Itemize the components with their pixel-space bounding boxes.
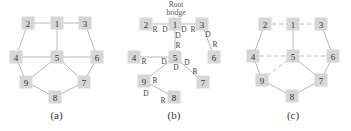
bridge-node-b-4: 4 [128,51,141,64]
bridge-id-label: 2 [144,20,149,30]
root-port-label: R [141,57,146,66]
bridge-node-a-7: 7 [78,76,91,89]
bridge-id-label: 2 [26,19,31,29]
bridge-node-a-5: 5 [51,51,64,64]
root-port-label: R [152,25,157,34]
bridge-id-label: 7 [201,78,206,88]
bridge-id-label: 8 [172,93,177,103]
root-port-label: R [175,41,180,50]
bridge-node-c-5: 5 [287,50,300,63]
bridge-id-label: 4 [14,53,19,63]
bridge-node-a-9: 9 [20,76,33,89]
stp-diagram: 123456978123456978123456978 (a)RDDRDRDRR… [0,0,351,131]
bridge-node-c-7: 7 [315,74,328,87]
bridge-node-c-4: 4 [247,50,260,63]
bridge-node-a-1: 1 [51,17,64,30]
bridge-id-label: 9 [260,76,265,86]
bridge-node-a-6: 6 [91,51,104,64]
bridge-node-b-9: 9 [138,75,151,88]
bridge-node-b-2: 2 [140,18,153,31]
bridge-node-c-8: 8 [286,90,299,103]
bridge-id-label: 9 [24,78,29,88]
bridge-node-b-8: 8 [168,91,181,104]
bridge-node-c-1: 1 [287,18,300,31]
bridge-id-label: 9 [142,77,147,87]
bridge-node-a-2: 2 [22,17,35,30]
bridge-id-label: 4 [251,52,256,62]
bridge-node-a-8: 8 [49,91,62,104]
bridge-node-c-3: 3 [315,18,328,31]
root-port-label: R [212,40,217,49]
root-port-label: R [160,96,165,105]
panel-caption-c: (c) [287,109,300,122]
root-port-label: R [192,67,197,76]
bridge-id-label: 6 [212,53,217,63]
panel-caption-a: (a) [50,109,63,122]
designated-port-label: D [143,89,149,98]
bridge-node-c-6: 6 [327,50,340,63]
bridge-id-label: 5 [173,53,178,63]
bridge-id-label: 1 [291,20,296,30]
bridge-id-label: 5 [291,52,296,62]
bridge-id-label: 1 [55,19,60,29]
bridge-node-b-1: 1 [169,18,182,31]
bridge-id-label: 8 [290,92,295,102]
bridge-id-label: 2 [263,20,268,30]
root-bridge-label-line2: bridge [166,8,186,17]
bridge-node-a-4: 4 [10,51,23,64]
designated-port-label: D [162,25,168,34]
designated-port-label: D [181,25,187,34]
bridge-id-label: 4 [132,53,137,63]
bridge-id-label: 3 [200,20,205,30]
root-port-label: R [190,25,195,34]
bridge-id-label: 6 [95,53,100,63]
panel-caption-b: (b) [168,109,181,122]
bridge-node-a-3: 3 [79,17,92,30]
bridge-node-b-7: 7 [197,76,210,89]
designated-port-label: D [205,30,211,39]
bridge-id-label: 5 [55,53,60,63]
bridge-id-label: 7 [82,78,87,88]
bridge-id-label: 8 [53,93,58,103]
bridge-id-label: 6 [331,52,336,62]
designated-port-label: D [173,63,179,72]
bridge-id-label: 1 [173,20,178,30]
designated-port-label: D [175,31,181,40]
bridge-id-label: 3 [83,19,88,29]
bridge-node-c-2: 2 [259,18,272,31]
bridge-id-label: 7 [319,76,324,86]
bridge-node-b-6: 6 [208,51,221,64]
designated-port-label: D [161,57,167,66]
root-port-label: R [152,76,157,85]
bridge-id-label: 3 [319,20,324,30]
designated-port-label: D [184,58,190,67]
bridge-node-c-9: 9 [256,74,269,87]
